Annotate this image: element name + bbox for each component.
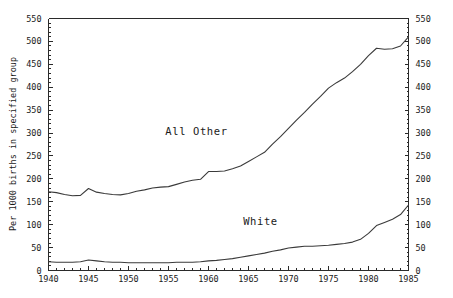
- axes-frame: [49, 19, 409, 271]
- series-label-white: White: [243, 215, 278, 227]
- y-tick-label: 350: [416, 105, 431, 115]
- x-tick-label: 1985: [398, 274, 418, 284]
- y-tick-label: 250: [416, 151, 431, 161]
- x-tick-label: 1980: [358, 274, 378, 284]
- x-tick-label: 1965: [238, 274, 258, 284]
- y-axis-ticks-left: [49, 19, 53, 271]
- y-tick-label: 400: [26, 82, 41, 92]
- y-tick-label: 550: [416, 14, 431, 24]
- y-tick-label: 200: [26, 174, 41, 184]
- y-axis-ticks-right: [405, 19, 409, 271]
- chart-figure: 050100150200250300350400450500550 050100…: [0, 0, 453, 298]
- y-tick-label: 150: [416, 197, 431, 207]
- x-tick-label: 1960: [198, 274, 218, 284]
- x-tick-label: 1955: [158, 274, 178, 284]
- x-tick-label: 1975: [318, 274, 338, 284]
- x-tick-label: 1970: [278, 274, 298, 284]
- x-axis-tick-labels: 1940194519501955196019651970197519801985: [38, 274, 418, 284]
- y-tick-label: 50: [416, 243, 426, 253]
- line-chart: 050100150200250300350400450500550 050100…: [0, 0, 453, 298]
- y-tick-label: 450: [26, 59, 41, 69]
- x-tick-label: 1945: [78, 274, 98, 284]
- data-series-group: [49, 37, 409, 263]
- y-axis-tick-labels-left: 050100150200250300350400450500550: [26, 14, 41, 276]
- y-tick-label: 200: [416, 174, 431, 184]
- y-tick-label: 100: [26, 220, 41, 230]
- series-inline-labels: All OtherWhite: [165, 125, 277, 227]
- y-tick-label: 100: [416, 220, 431, 230]
- y-axis-tick-labels-right: 050100150200250300350400450500550: [416, 14, 431, 276]
- y-tick-label: 500: [416, 36, 431, 46]
- y-tick-label: 250: [26, 151, 41, 161]
- y-tick-label: 300: [26, 128, 41, 138]
- x-tick-label: 1950: [118, 274, 138, 284]
- y-tick-label: 400: [416, 82, 431, 92]
- y-axis-title: Per 1000 births in specified group: [8, 57, 18, 231]
- y-tick-label: 550: [26, 14, 41, 24]
- y-tick-label: 150: [26, 197, 41, 207]
- y-tick-label: 500: [26, 36, 41, 46]
- y-tick-label: 350: [26, 105, 41, 115]
- series-line-white: [49, 205, 409, 263]
- y-tick-label: 50: [31, 243, 41, 253]
- y-tick-label: 300: [416, 128, 431, 138]
- series-label-all-other: All Other: [165, 125, 227, 137]
- x-axis-ticks: [49, 266, 409, 271]
- x-tick-label: 1940: [38, 274, 58, 284]
- series-line-all-other: [49, 37, 409, 196]
- y-tick-label: 450: [416, 59, 431, 69]
